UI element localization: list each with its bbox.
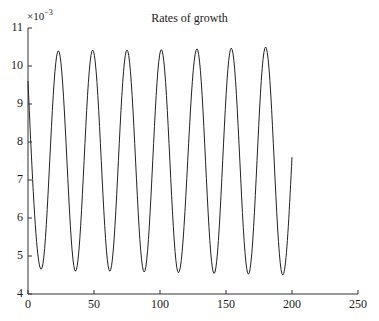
y-tick-label: 7 — [3, 172, 23, 187]
y-tick-label: 9 — [3, 96, 23, 111]
y-tick-label: 4 — [3, 286, 23, 301]
y-tick-label: 8 — [3, 134, 23, 149]
y-tick-label: 6 — [3, 210, 23, 225]
plot-area — [0, 0, 379, 321]
y-tick-label: 5 — [3, 248, 23, 263]
x-tick-label: 250 — [343, 297, 373, 312]
x-tick-label: 200 — [277, 297, 307, 312]
x-tick-label: 100 — [145, 297, 175, 312]
series-line — [28, 47, 292, 275]
x-tick-label: 50 — [79, 297, 109, 312]
y-tick-label: 10 — [3, 58, 23, 73]
x-tick-label: 150 — [211, 297, 241, 312]
y-tick-label: 11 — [3, 20, 23, 35]
